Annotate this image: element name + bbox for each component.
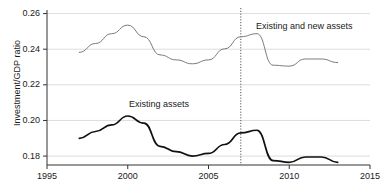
y-tick-label-4: 0.26 [0,9,40,18]
x-tick-label-1: 2000 [108,172,148,181]
tick-marks-group [43,14,370,169]
series-paths-group [79,25,337,162]
y-tick-label-0: 0.18 [0,152,40,161]
series-line-existing-assets [79,116,337,162]
y-tick-label-3: 0.24 [0,45,40,54]
x-tick-label-3: 2010 [269,172,309,181]
series-annotation-existing-assets: Existing assets [129,100,189,109]
x-tick-label-4: 2015 [350,172,385,181]
y-tick-label-1: 0.20 [0,116,40,125]
gridlines-group [47,14,370,157]
series-line-existing-and-new-assets [79,25,337,66]
x-tick-label-0: 1995 [27,172,67,181]
series-annotation-existing-and-new-assets: Existing and new assets [256,22,353,31]
axis-lines-group [47,10,370,165]
x-tick-label-2: 2005 [189,172,229,181]
y-tick-label-2: 0.22 [0,80,40,89]
